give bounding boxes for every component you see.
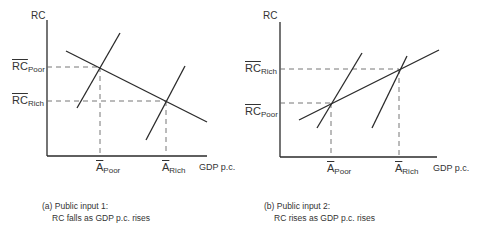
diagram-canvas bbox=[0, 0, 478, 233]
poor-steep-line bbox=[317, 53, 362, 128]
rich-steep-line bbox=[146, 66, 185, 140]
panel-b-caption: (b) Public input 2: RC rises as GDP p.c.… bbox=[264, 200, 375, 224]
panel-b-x-axis-label: GDP p.c. bbox=[433, 163, 469, 173]
panel-a-dashed-guides bbox=[47, 67, 166, 156]
panel-a-y-axis-label: RC bbox=[31, 11, 45, 21]
rc-rising-line bbox=[299, 50, 439, 120]
panel-a-x-axis-label: GDP p.c. bbox=[199, 162, 235, 172]
rc-falling-line bbox=[66, 51, 207, 122]
panel-a-ytick-poor: RCPoor bbox=[12, 61, 45, 73]
panel-b-curves bbox=[299, 50, 439, 128]
poor-steep-line bbox=[77, 33, 120, 108]
panel-a-xtick-poor: APoor bbox=[96, 162, 120, 174]
panel-b-dashed-guides bbox=[280, 69, 399, 157]
panel-a-axes bbox=[47, 20, 207, 156]
panel-b-ytick-rich: RCRich bbox=[245, 63, 277, 75]
panel-b-xtick-rich: ARich bbox=[395, 163, 418, 175]
panel-a-caption: (a) Public input 1: RC falls as GDP p.c.… bbox=[42, 200, 150, 224]
panel-b-xtick-poor: APoor bbox=[327, 163, 351, 175]
panel-b-ytick-poor: RCPoor bbox=[245, 106, 278, 118]
panel-a-xtick-rich: ARich bbox=[162, 162, 185, 174]
panel-b-axes bbox=[280, 22, 437, 157]
rich-steep-line bbox=[372, 56, 407, 128]
panel-b-y-axis-label: RC bbox=[263, 11, 277, 21]
panel-a-curves bbox=[66, 33, 207, 140]
panel-a-ytick-rich: RCRich bbox=[12, 95, 44, 107]
